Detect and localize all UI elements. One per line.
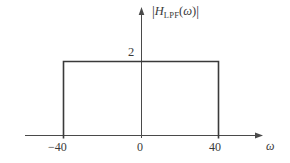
y-axis-label-subscript: LPF [164,10,179,20]
x-tick-label-negative-40: −40 [48,141,67,153]
filter-response-figure: |HLPF(ω)| 2 −40 0 40 ω [0,0,290,163]
x-axis-label: ω [266,140,274,152]
x-axis-arrowhead [255,133,263,139]
x-tick-label-zero: 0 [137,141,143,153]
y-axis-label: |HLPF(ω)| [152,5,199,19]
x-tick-label-40: 40 [209,141,221,153]
y-axis-label-argument: ω [183,4,192,18]
y-tick-label-2: 2 [128,46,134,59]
y-axis-label-close-bar: | [196,4,199,19]
plot-canvas [0,0,290,163]
y-axis-label-symbol: H [155,4,164,18]
y-axis-arrowhead [139,7,145,15]
